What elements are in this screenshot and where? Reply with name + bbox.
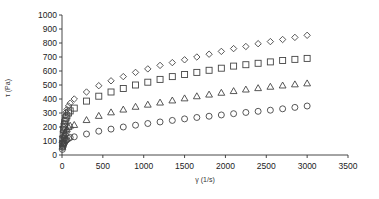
circle-marker-icon (108, 126, 114, 132)
diamond-marker-icon (83, 89, 89, 95)
square-marker-icon (84, 98, 90, 104)
diamond-marker-icon (145, 66, 151, 72)
triangle-marker-icon (83, 117, 90, 123)
circle-marker-icon (96, 128, 102, 134)
diamond-marker-icon (243, 43, 249, 49)
square-marker-icon (133, 82, 139, 88)
triangle-marker-icon (193, 93, 200, 99)
y-tick-label: 600 (43, 66, 57, 76)
triangle-marker-icon (120, 106, 127, 112)
x-tick-label: 1500 (175, 161, 194, 171)
circle-marker-icon (280, 106, 286, 112)
diamond-marker-icon (292, 34, 298, 40)
square-marker-icon (255, 60, 261, 66)
y-tick-label: 500 (43, 80, 57, 90)
triangle-marker-icon (132, 103, 139, 109)
triangle-marker-icon (181, 95, 188, 101)
diamond-marker-icon (120, 73, 126, 79)
diamond-marker-icon (255, 41, 261, 47)
circle-marker-icon (206, 113, 212, 119)
y-tick-label: 900 (43, 24, 57, 34)
circle-marker-icon (71, 134, 77, 140)
square-marker-icon (206, 67, 212, 73)
circle-marker-icon (243, 109, 249, 115)
y-axis-title: τ (Pa) (4, 79, 12, 97)
circle-marker-icon (231, 111, 237, 117)
diamond-marker-icon (96, 83, 102, 89)
square-marker-icon (145, 79, 151, 85)
diamond-marker-icon (206, 51, 212, 57)
scatter-chart: 0100200300400500600700800900100005001000… (0, 0, 379, 199)
square-marker-icon (108, 89, 114, 95)
diamond-marker-icon (169, 59, 175, 65)
x-tick-label: 500 (96, 161, 110, 171)
circle-marker-icon (304, 103, 310, 109)
circle-marker-icon (145, 121, 151, 127)
circle-marker-icon (267, 107, 273, 113)
square-marker-icon (304, 55, 310, 61)
diamond-marker-icon (157, 62, 163, 68)
triangle-marker-icon (279, 82, 286, 88)
y-tick-label: 0 (52, 150, 57, 160)
triangle-marker-icon (144, 101, 151, 107)
triangle-marker-icon (267, 83, 274, 89)
triangle-marker-icon (218, 89, 225, 95)
x-tick-label: 3500 (339, 161, 358, 171)
y-tick-label: 400 (43, 94, 57, 104)
square-marker-icon (96, 93, 102, 99)
data-points (59, 32, 311, 152)
y-tick-label: 1000 (38, 10, 57, 20)
triangle-marker-icon (304, 80, 311, 86)
circle-marker-icon (255, 108, 261, 114)
triangle-marker-icon (255, 85, 262, 91)
diamond-marker-icon (279, 36, 285, 42)
diamond-marker-icon (218, 48, 224, 54)
y-tick-label: 300 (43, 108, 57, 118)
x-tick-label: 2500 (257, 161, 276, 171)
square-marker-icon (243, 62, 249, 68)
square-marker-icon (120, 86, 126, 92)
x-tick-label: 3000 (298, 161, 317, 171)
diamond-marker-icon (267, 38, 273, 44)
triangle-marker-icon (242, 86, 249, 92)
square-marker-icon (218, 65, 224, 71)
diamond-marker-icon (132, 69, 138, 75)
diamond-marker-icon (108, 78, 114, 84)
circle-marker-icon (157, 119, 163, 125)
square-marker-icon (194, 69, 200, 75)
triangle-marker-icon (291, 81, 298, 87)
square-marker-icon (280, 58, 286, 64)
y-tick-label: 100 (43, 136, 57, 146)
square-marker-icon (157, 76, 163, 82)
triangle-marker-icon (95, 112, 102, 118)
square-marker-icon (231, 63, 237, 69)
square-marker-icon (169, 74, 175, 80)
circle-marker-icon (218, 112, 224, 118)
square-marker-icon (267, 59, 273, 65)
circle-marker-icon (133, 122, 139, 128)
diamond-marker-icon (304, 32, 310, 38)
y-tick-label: 700 (43, 52, 57, 62)
triangle-marker-icon (169, 97, 176, 103)
triangle-marker-icon (108, 109, 115, 115)
circle-marker-icon (169, 117, 175, 123)
triangle-marker-icon (230, 88, 237, 94)
circle-marker-icon (292, 104, 298, 110)
square-marker-icon (182, 72, 188, 78)
triangle-marker-icon (206, 91, 213, 97)
y-tick-label: 200 (43, 122, 57, 132)
circle-marker-icon (84, 131, 90, 137)
x-tick-label: 2000 (216, 161, 235, 171)
circle-marker-icon (194, 114, 200, 120)
x-axis-title: γ (1/s) (195, 176, 214, 184)
y-tick-label: 800 (43, 38, 57, 48)
circle-marker-icon (182, 116, 188, 122)
diamond-marker-icon (230, 45, 236, 51)
circle-marker-icon (120, 124, 126, 130)
triangle-marker-icon (157, 99, 164, 105)
x-tick-label: 0 (60, 161, 65, 171)
square-marker-icon (292, 56, 298, 62)
diamond-marker-icon (181, 57, 187, 63)
diamond-marker-icon (194, 54, 200, 60)
x-tick-label: 1000 (134, 161, 153, 171)
